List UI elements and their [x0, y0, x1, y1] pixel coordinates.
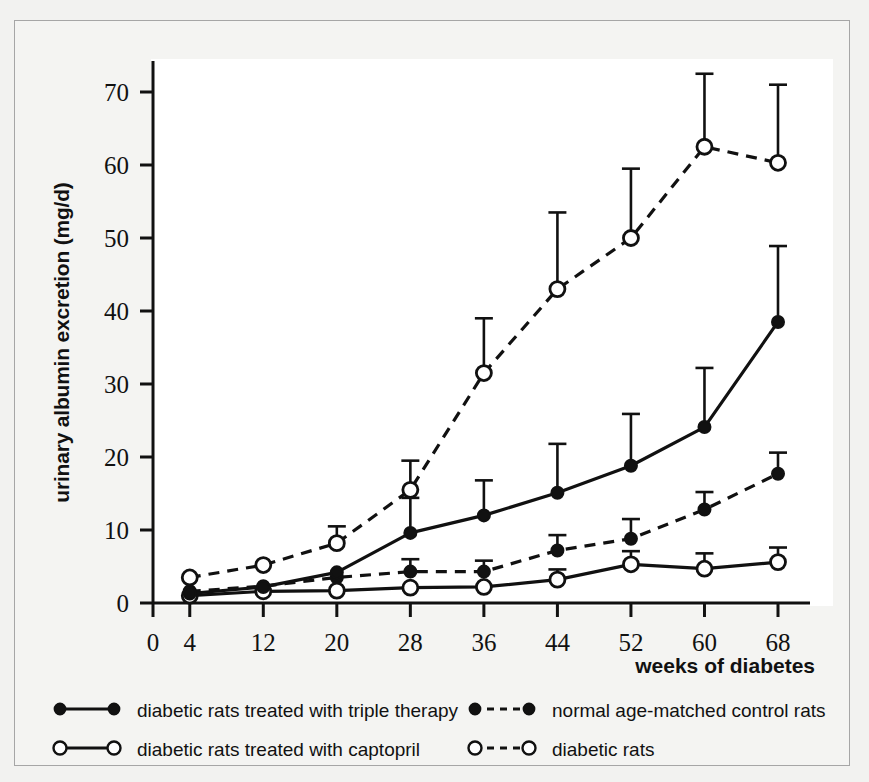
x-tick-label: 0	[147, 629, 160, 656]
chart-canvas: urinary albumin excretion (mg/d) weeks o…	[15, 21, 851, 767]
data-point	[476, 366, 491, 381]
legend-marker-icon	[524, 704, 535, 715]
y-tick-label: 40	[104, 298, 129, 325]
y-tick-label: 0	[117, 590, 130, 617]
legend-marker-icon	[54, 742, 67, 755]
legend-label: diabetic rats	[552, 739, 654, 760]
data-point	[329, 536, 344, 551]
data-point	[551, 544, 563, 556]
data-point	[623, 231, 638, 246]
data-point	[403, 482, 418, 497]
legend-marker-icon	[469, 742, 482, 755]
legend-label: diabetic rats treated with triple therap…	[137, 700, 459, 721]
data-point	[329, 583, 344, 598]
data-point	[550, 572, 565, 587]
y-axis-title: urinary albumin excretion (mg/d)	[50, 182, 73, 502]
data-point	[697, 561, 712, 576]
legend-label: normal age-matched control rats	[552, 700, 826, 721]
legend-entry[interactable]: diabetic rats	[469, 739, 655, 760]
legend-marker-icon	[109, 704, 120, 715]
x-tick-label: 36	[471, 629, 496, 656]
y-tick-label: 30	[104, 371, 129, 398]
y-tick-label: 20	[104, 444, 129, 471]
data-point	[256, 558, 271, 573]
y-tick-label: 60	[104, 152, 129, 179]
x-tick-label: 28	[398, 629, 423, 656]
data-point	[625, 460, 637, 472]
legend-marker-icon	[55, 704, 66, 715]
x-tick-label: 4	[184, 629, 197, 656]
x-tick-label: 68	[766, 629, 791, 656]
data-point	[404, 566, 416, 578]
plot-area-background	[151, 59, 833, 606]
data-point	[551, 487, 563, 499]
x-tick-label: 52	[618, 629, 643, 656]
y-axis-ticks: 010203040506070	[104, 79, 152, 617]
legend-marker-icon	[470, 704, 481, 715]
data-point	[771, 155, 786, 170]
legend-entry[interactable]: diabetic rats treated with captopril	[54, 739, 421, 760]
data-point	[478, 566, 490, 578]
data-point	[331, 566, 343, 578]
data-point	[257, 581, 269, 593]
x-tick-label: 20	[324, 629, 349, 656]
data-point	[403, 580, 418, 595]
data-point	[182, 570, 197, 585]
legend-entry[interactable]: normal age-matched control rats	[470, 700, 826, 721]
data-point	[698, 421, 710, 433]
data-point	[404, 527, 416, 539]
data-point	[772, 316, 784, 328]
y-tick-label: 70	[104, 79, 129, 106]
data-point	[478, 509, 490, 521]
data-point	[550, 282, 565, 297]
x-tick-label: 60	[692, 629, 717, 656]
x-tick-label: 44	[545, 629, 571, 656]
y-tick-label: 50	[104, 225, 129, 252]
data-point	[476, 579, 491, 594]
legend-marker-icon	[108, 742, 121, 755]
data-point	[698, 504, 710, 516]
data-point	[772, 468, 784, 480]
y-tick-label: 10	[104, 517, 129, 544]
x-axis-ticks: 041220283644526068	[147, 604, 791, 656]
legend-entry[interactable]: diabetic rats treated with triple therap…	[55, 700, 459, 721]
figure-panel: urinary albumin excretion (mg/d) weeks o…	[14, 20, 850, 766]
data-point	[184, 588, 196, 600]
x-tick-label: 12	[251, 629, 276, 656]
data-point	[623, 557, 638, 572]
data-point	[625, 533, 637, 545]
x-axis-title: weeks of diabetes	[634, 654, 815, 677]
data-point	[697, 139, 712, 154]
data-point	[771, 555, 786, 570]
legend-marker-icon	[523, 742, 536, 755]
chart-legend: diabetic rats treated with triple therap…	[54, 700, 826, 760]
legend-label: diabetic rats treated with captopril	[137, 739, 420, 760]
